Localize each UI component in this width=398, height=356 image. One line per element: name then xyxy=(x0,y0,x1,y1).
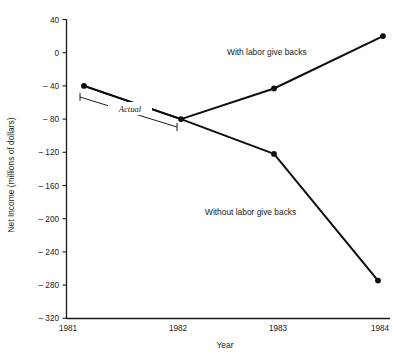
series-without-label: Without labor give backs xyxy=(205,207,296,217)
series-with-point-1983 xyxy=(271,86,277,92)
x-axis-ticks: 1981 1982 1983 1984 xyxy=(59,324,390,333)
y-axis-title: Net Income (millions of dollars) xyxy=(6,117,16,232)
series-without-labor-give-backs: Without labor give backs xyxy=(84,86,381,284)
series-without-line xyxy=(84,86,378,281)
y-tick-label-m200: – 200 xyxy=(39,215,60,224)
x-tick-label-1984: 1984 xyxy=(371,324,390,333)
y-tick-label-40: 40 xyxy=(50,16,60,25)
line-chart: 40 0 – 40 – 80 – 120 – 160 – 200 – 240 –… xyxy=(0,0,398,356)
annot-actual-label: Actual xyxy=(118,104,142,114)
y-tick-label-0: 0 xyxy=(54,49,59,58)
y-tick-label-m120: – 120 xyxy=(39,148,60,157)
series-with-point-1984 xyxy=(380,33,386,39)
y-tick-label-m240: – 240 xyxy=(39,248,60,257)
x-axis-title: Year xyxy=(217,340,234,350)
y-tick-label-m40: – 40 xyxy=(43,82,59,91)
x-tick-label-1981: 1981 xyxy=(59,324,78,333)
y-axis-ticks: 40 0 – 40 – 80 – 120 – 160 – 200 – 240 –… xyxy=(39,16,67,324)
chart-container: 40 0 – 40 – 80 – 120 – 160 – 200 – 240 –… xyxy=(0,0,398,356)
y-tick-label-m280: – 280 xyxy=(39,281,60,290)
y-tick-label-m80: – 80 xyxy=(43,115,59,124)
x-tick-label-1982: 1982 xyxy=(169,324,188,333)
y-tick-label-m320: – 320 xyxy=(39,314,60,323)
y-tick-label-m160: – 160 xyxy=(39,182,60,191)
series-without-point-1983 xyxy=(271,151,277,157)
axes xyxy=(67,19,391,319)
x-tick-label-1983: 1983 xyxy=(269,324,288,333)
series-with-label: With labor give backs xyxy=(227,47,307,57)
series-without-point-1984 xyxy=(375,278,381,284)
